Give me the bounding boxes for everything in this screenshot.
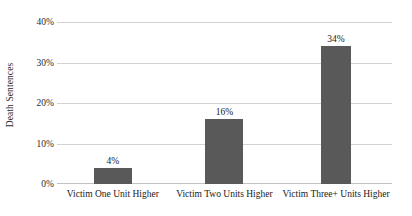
bar-victim-one-unit-higher[interactable] — [94, 168, 132, 184]
x-axis-category-labels: Victim One Unit Higher Victim Two Units … — [57, 188, 392, 208]
plot-area: 4% 16% 34% — [57, 22, 392, 184]
bar-group-1: 4% — [57, 22, 169, 184]
bar-value-label-2: 16% — [216, 107, 233, 118]
bar-victim-three-plus-units-higher[interactable] — [321, 46, 351, 184]
x-label-victim-two-units-higher: Victim Two Units Higher — [176, 188, 272, 200]
y-tick-label-10: 10% — [18, 139, 54, 149]
y-axis-title-text: Death Sentences — [5, 63, 15, 128]
y-axis-title: Death Sentences — [2, 0, 18, 190]
bar-value-label-3: 34% — [327, 34, 344, 45]
bar-group-3: 34% — [280, 22, 392, 184]
y-tick-label-20: 20% — [18, 98, 54, 108]
y-axis-tick-labels: 0% 10% 20% 30% 40% — [18, 0, 54, 216]
y-tick-label-40: 40% — [18, 17, 54, 27]
x-label-victim-one-unit-higher: Victim One Unit Higher — [67, 188, 159, 200]
x-label-victim-three-plus-units-higher: Victim Three+ Units Higher — [282, 188, 389, 200]
bar-group-2: 16% — [169, 22, 281, 184]
y-tick-label-0: 0% — [18, 179, 54, 189]
bar-value-label-1: 4% — [106, 156, 119, 167]
y-tick-label-30: 30% — [18, 58, 54, 68]
bar-chart: Death Sentences 0% 10% 20% 30% 40% 4% 16… — [0, 0, 412, 216]
bar-victim-two-units-higher[interactable] — [205, 119, 243, 184]
bar-series: 4% 16% 34% — [57, 22, 392, 184]
